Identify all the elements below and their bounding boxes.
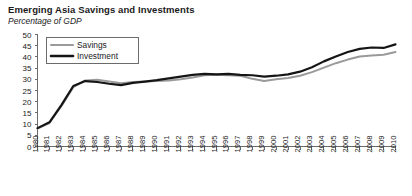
x-tick-label: 2004 — [317, 136, 326, 153]
x-tick-label: 1990 — [150, 136, 159, 153]
y-tick-label: 25 — [23, 87, 32, 96]
line-chart-plot: 05101520253035404550 1980198119821983198… — [0, 0, 412, 196]
x-tick-label: 1983 — [66, 136, 75, 153]
x-tick-label: 1999 — [257, 136, 266, 153]
x-tick-label: 2002 — [293, 136, 302, 153]
x-tick-label: 1993 — [186, 136, 195, 153]
x-tick-label: 2000 — [269, 136, 278, 153]
x-tick-label: 1989 — [138, 136, 147, 153]
x-tick-label: 1998 — [245, 136, 254, 153]
y-tick-label: 50 — [23, 31, 32, 40]
y-axis: 05101520253035404550 — [23, 31, 38, 152]
x-tick-label: 1981 — [42, 136, 51, 153]
x-tick-label: 1984 — [78, 136, 87, 153]
x-tick-label: 1996 — [221, 136, 230, 153]
x-tick-label: 1980 — [31, 136, 40, 153]
x-tick-label: 1995 — [210, 136, 219, 153]
x-tick-label: 1994 — [198, 136, 207, 153]
x-tick-label: 2003 — [305, 136, 314, 153]
x-tick-label: 1991 — [162, 136, 171, 153]
y-tick-label: 10 — [23, 120, 32, 129]
x-tick-label: 1986 — [102, 136, 111, 153]
x-tick-label: 1997 — [233, 136, 242, 153]
x-tick-label: 2006 — [341, 136, 350, 153]
x-tick-label: 2010 — [389, 136, 398, 153]
x-axis: 1980198119821983198419851986198719881989… — [31, 136, 398, 153]
x-tick-label: 1985 — [90, 136, 99, 153]
chart-figure: Emerging Asia Savings and Investments Pe… — [0, 0, 412, 196]
y-tick-label: 20 — [23, 98, 32, 107]
x-tick-label: 1982 — [54, 136, 63, 153]
x-tick-label: 2007 — [353, 136, 362, 153]
chart-legend: SavingsInvestment — [46, 37, 138, 63]
legend-label-investment: Investment — [77, 51, 119, 61]
y-tick-label: 40 — [23, 53, 32, 62]
x-tick-label: 2008 — [365, 136, 374, 153]
y-tick-label: 45 — [23, 42, 32, 51]
legend-label-savings: Savings — [77, 40, 107, 50]
x-tick-label: 1988 — [126, 136, 135, 153]
x-tick-label: 1987 — [114, 136, 123, 153]
x-tick-label: 1992 — [174, 136, 183, 153]
x-tick-label: 2009 — [377, 136, 386, 153]
x-tick-label: 2005 — [329, 136, 338, 153]
y-tick-label: 30 — [23, 75, 32, 84]
x-tick-label: 2001 — [281, 136, 290, 153]
y-tick-label: 15 — [23, 109, 32, 118]
y-tick-label: 35 — [23, 64, 32, 73]
